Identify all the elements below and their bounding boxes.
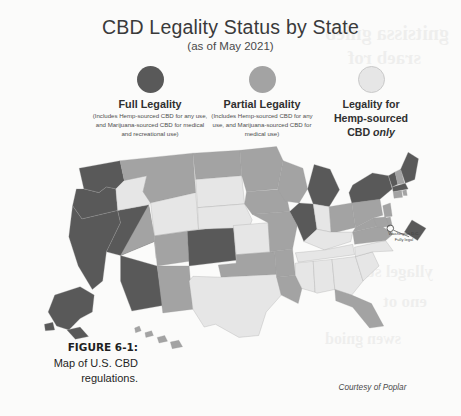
legend-item-hemp-only: Legality for Hemp-sourced CBD only	[322, 66, 420, 139]
legend-label-hemp-only: Legality for Hemp-sourced CBD only	[322, 98, 420, 139]
state-HI	[135, 326, 183, 349]
figure-number: FIGURE 6-1:	[68, 341, 138, 353]
legend-description-partial-legality: (Includes Hemp-sourced CBD for any use, …	[206, 112, 318, 138]
state-NY	[349, 173, 392, 203]
figure-caption: FIGURE 6-1: Map of U.S. CBD regulations.	[6, 337, 138, 385]
map-legend: Full Legality (Includes Hemp-sourced CBD…	[90, 66, 420, 132]
legend-description-full-legality: (Includes Hemp-sourced CBD for any use, …	[90, 112, 210, 138]
legend-label-hemp-only-emphasis: only	[373, 126, 395, 138]
state-AZ	[121, 256, 163, 311]
dc-annotation-label: Washington D.C. Fully legal	[381, 231, 427, 243]
state-AL	[313, 259, 335, 293]
state-ME	[401, 152, 419, 183]
legend-item-partial-legality: Partial Legality (Includes Hemp-sourced …	[206, 66, 318, 139]
chart-subtitle: (as of May 2021)	[0, 40, 461, 52]
legend-label-partial-legality: Partial Legality	[206, 98, 318, 110]
state-AK	[44, 287, 94, 340]
partial-legality-swatch	[249, 66, 276, 93]
image-credit: Courtesy of Poplar	[300, 383, 445, 392]
state-TX	[189, 274, 281, 337]
state-ND	[193, 150, 242, 179]
legend-label-hemp-only-line1: Legality for	[342, 98, 399, 110]
hemp-only-swatch	[358, 66, 385, 93]
state-UT2	[154, 231, 189, 266]
state-SD	[196, 176, 245, 208]
state-CT	[393, 191, 402, 199]
state-OH	[329, 203, 355, 233]
state-NJ	[383, 203, 392, 217]
state-CO	[187, 226, 236, 266]
chart-title: CBD Legality Status by State	[0, 16, 461, 39]
legend-item-full-legality: Full Legality (Includes Hemp-sourced CBD…	[90, 66, 210, 139]
legend-label-hemp-only-line3: CBD	[347, 126, 370, 138]
state-MN	[240, 147, 283, 192]
state-KS	[233, 223, 270, 255]
legend-label-hemp-only-line2: Hemp-sourced	[334, 112, 408, 124]
full-legality-swatch	[137, 66, 164, 93]
state-RI	[403, 190, 408, 196]
state-NM	[157, 266, 193, 313]
legend-label-full-legality: Full Legality	[90, 98, 210, 110]
dc-annotation-line2: Fully legal	[395, 237, 413, 242]
figure-caption-text: Map of U.S. CBD regulations.	[6, 356, 138, 385]
state-FL	[335, 289, 384, 328]
dc-annotation-line1: Washington D.C.	[389, 231, 420, 236]
figure-container: CBD Legality Status by State (as of May …	[0, 0, 461, 416]
state-MI	[308, 164, 340, 206]
